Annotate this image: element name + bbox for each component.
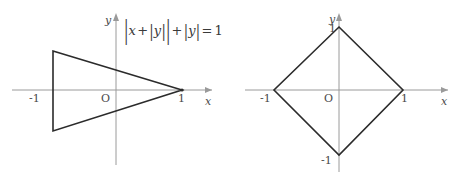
right-tick-label-y-neg1: -1: [321, 154, 332, 167]
figure-root: |x+|y||+|y|=1 y x O -1 1 |x|+|y|=1 y x O…: [0, 0, 466, 179]
left-eq-equals: =: [200, 23, 213, 38]
left-chart-panel: |x+|y||+|y|=1 y x O -1 1: [0, 0, 233, 179]
right-tick-label-y-pos1: 1: [329, 22, 336, 35]
right-tick-label-x-neg1: -1: [260, 92, 271, 105]
left-triangle-curve: [53, 51, 182, 131]
right-x-axis-arrow: [441, 87, 448, 93]
right-tick-label-x-pos1: 1: [401, 92, 408, 105]
right-origin-label: O: [324, 92, 333, 105]
left-eq-close-bar-2: |: [196, 20, 201, 40]
left-equation-annotation: |x+|y||+|y|=1: [124, 23, 224, 38]
left-origin-label: O: [101, 92, 110, 105]
right-x-axis-label: x: [441, 95, 447, 108]
left-eq-plus-1: +: [136, 23, 149, 38]
left-eq-var-y-2: y: [188, 23, 196, 38]
right-y-axis-arrow: [336, 13, 342, 21]
right-chart-svg: [233, 0, 466, 179]
left-x-axis-arrow: [205, 87, 212, 93]
right-chart-panel: |x|+|y|=1 y x O -1 1 1 -1: [233, 0, 466, 179]
left-tick-label-pos1: 1: [178, 92, 185, 105]
left-eq-open-bar-2: |: [184, 20, 189, 40]
left-tick-label-neg1: -1: [29, 92, 40, 105]
left-eq-outer-close-bar: |: [166, 16, 171, 45]
left-eq-rhs: 1: [213, 23, 223, 38]
left-y-axis-label: y: [105, 14, 111, 27]
left-eq-var-x: x: [129, 23, 137, 38]
left-x-axis-label: x: [205, 95, 211, 108]
left-eq-outer-open-bar: |: [124, 16, 129, 45]
left-eq-var-y-1: y: [154, 23, 162, 38]
left-eq-plus-2: +: [171, 23, 184, 38]
left-eq-inner-open-bar: |: [149, 20, 154, 40]
left-y-axis-arrow: [113, 13, 119, 21]
